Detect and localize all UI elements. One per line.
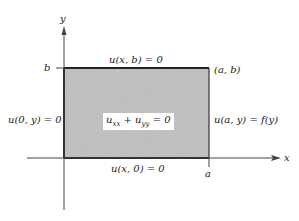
top-boundary-condition: u(x, b) = 0 <box>109 55 163 65</box>
eq-plus: + <box>120 114 135 125</box>
y-axis-arrow-icon <box>62 26 67 35</box>
left-boundary-condition: u(0, y) = 0 <box>8 115 62 125</box>
diagram-graphics <box>0 0 299 221</box>
dirichlet-rectangle-diagram: y x b a (a, b) u(x, b) = 0 u(x, 0) = 0 u… <box>0 0 299 221</box>
y-axis-label: y <box>60 14 66 24</box>
laplace-equation-label: uxx + uyy = 0 <box>103 113 174 130</box>
x-tick-label-a: a <box>205 169 211 179</box>
x-axis-label: x <box>284 153 290 163</box>
right-boundary-condition: u(a, y) = f(y) <box>214 115 278 125</box>
y-tick-label-b: b <box>44 63 50 73</box>
eq-equals-zero: = 0 <box>149 114 170 125</box>
bottom-boundary-condition: u(x, 0) = 0 <box>111 164 165 174</box>
corner-label: (a, b) <box>214 65 241 75</box>
